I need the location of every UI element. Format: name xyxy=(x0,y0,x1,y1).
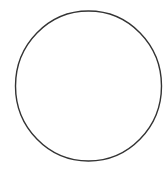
diagram-canvas xyxy=(0,0,167,186)
circle-outline xyxy=(16,11,162,161)
